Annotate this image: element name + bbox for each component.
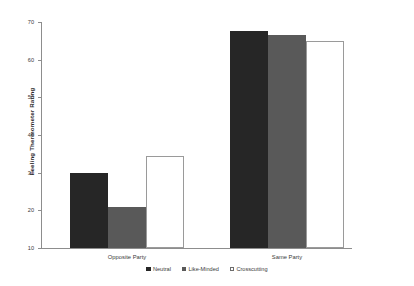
- chart-legend: NeutralLike-MindedCrosscutting: [0, 266, 414, 272]
- x-axis-line: [41, 248, 352, 249]
- y-tick-mark: [38, 22, 41, 23]
- y-tick-mark: [38, 173, 41, 174]
- legend-swatch-icon: [146, 267, 151, 272]
- y-tick-mark: [38, 210, 41, 211]
- y-tick-label: 70: [6, 19, 34, 25]
- category-label: Opposite Party: [70, 254, 184, 260]
- y-axis-line: [41, 22, 42, 248]
- legend-label: Like-Minded: [188, 266, 218, 272]
- y-tick-label: 50: [6, 94, 34, 100]
- bar-like-minded-same-party: [268, 35, 306, 248]
- legend-item-crosscutting[interactable]: Crosscutting: [230, 266, 268, 272]
- bar-chart: Feeling Thermometer Rating 1020304050607…: [0, 0, 414, 286]
- y-tick-label: 30: [6, 170, 34, 176]
- legend-item-neutral[interactable]: Neutral: [146, 266, 171, 272]
- legend-item-like-minded[interactable]: Like-Minded: [182, 266, 219, 272]
- y-tick-mark: [38, 97, 41, 98]
- legend-swatch-icon: [230, 267, 235, 272]
- legend-label: Crosscutting: [236, 266, 267, 272]
- bar-crosscutting-opposite-party: [146, 156, 184, 248]
- y-tick-label: 10: [6, 245, 34, 251]
- y-tick-label: 60: [6, 57, 34, 63]
- bar-like-minded-opposite-party: [108, 207, 146, 248]
- legend-label: Neutral: [153, 266, 171, 272]
- y-tick-mark: [38, 60, 41, 61]
- y-tick-mark: [38, 135, 41, 136]
- y-tick-label: 20: [6, 207, 34, 213]
- bar-crosscutting-same-party: [306, 41, 344, 248]
- legend-swatch-icon: [182, 267, 187, 272]
- category-label: Same Party: [230, 254, 344, 260]
- y-tick-mark: [38, 248, 41, 249]
- y-tick-label: 40: [6, 132, 34, 138]
- bar-neutral-same-party: [230, 31, 268, 248]
- bar-neutral-opposite-party: [70, 173, 108, 248]
- plot-area: 10203040506070 Opposite PartySame Party: [41, 22, 352, 248]
